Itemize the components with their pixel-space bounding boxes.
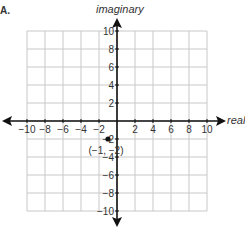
complex-plane: A. imaginary real −10−8−6−4−2246810 1086… bbox=[0, 0, 245, 232]
x-tick-label: 6 bbox=[168, 124, 174, 135]
point-label: (−1, −2) bbox=[88, 145, 123, 156]
x-tick-label: 10 bbox=[201, 124, 213, 135]
y-tick-label: −10 bbox=[97, 206, 114, 217]
y-tick-label: 4 bbox=[108, 80, 114, 91]
y-tick-label: 8 bbox=[108, 44, 114, 55]
x-axis-label: real bbox=[227, 114, 245, 126]
x-tick-label: −10 bbox=[19, 124, 36, 135]
option-label: A. bbox=[0, 5, 10, 16]
y-tick-label: 6 bbox=[108, 62, 114, 73]
x-tick-label: 8 bbox=[186, 124, 192, 135]
y-tick-label: 10 bbox=[103, 26, 115, 37]
y-tick-label: −8 bbox=[103, 188, 115, 199]
x-tick-label: −6 bbox=[57, 124, 69, 135]
data-point bbox=[105, 136, 110, 141]
x-tick-label: 2 bbox=[132, 124, 138, 135]
x-tick-label: −8 bbox=[39, 124, 51, 135]
y-tick-label: −6 bbox=[103, 170, 115, 181]
x-tick-label: 4 bbox=[150, 124, 156, 135]
y-tick-label: 2 bbox=[108, 98, 114, 109]
x-tick-label: −4 bbox=[75, 124, 87, 135]
y-axis-label: imaginary bbox=[96, 3, 145, 15]
